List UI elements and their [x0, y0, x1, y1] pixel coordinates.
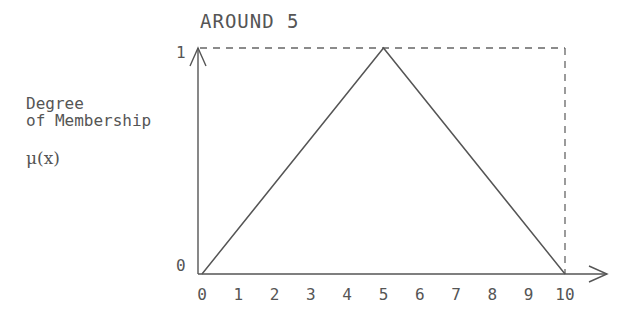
- membership-function-line: [202, 48, 565, 274]
- plot-area: [0, 0, 630, 315]
